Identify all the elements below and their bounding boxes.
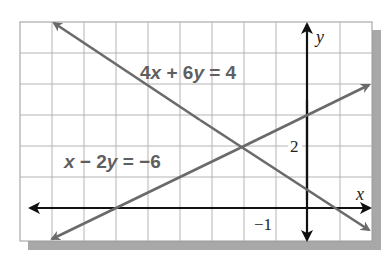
frame-shadow-right	[372, 30, 381, 250]
equation-label-2: x − 2y = −6	[63, 151, 161, 172]
x-tick-label-neg1: −1	[254, 215, 272, 234]
x-axis-label: x	[355, 184, 364, 204]
frame-shadow-bottom	[28, 241, 381, 250]
y-axis-label: y	[314, 27, 324, 47]
y-tick-label-2: 2	[290, 137, 299, 156]
coordinate-graph: 4x + 6y = 4 x − 2y = −6 y x 2 −1	[0, 0, 390, 262]
equation-label-1: 4x + 6y = 4	[140, 62, 237, 83]
